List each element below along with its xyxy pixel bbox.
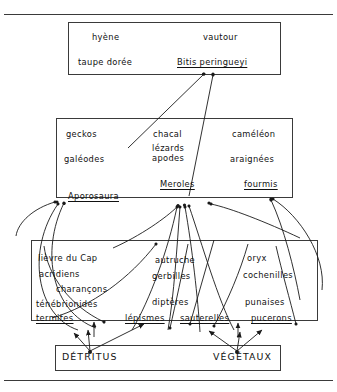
arrow-termites-to-aporosaura xyxy=(39,204,78,330)
arrow-acridiens-to-meroles xyxy=(113,206,178,248)
arrow-detritus-to-lepismes xyxy=(90,324,144,351)
label-tenebrionides: ténébrionides xyxy=(36,300,98,309)
arrow-tenebrionides-to-aporosaura xyxy=(52,203,96,328)
label-taupe-doree: taupe dorée xyxy=(78,58,132,67)
arrow-layer xyxy=(0,0,337,392)
label-vegetaux: VÉGÉTAUX xyxy=(213,352,272,362)
arrow-vegetaux-to-pucerons xyxy=(237,330,262,351)
arrow-lepismes-to-meroles xyxy=(132,207,177,330)
label-geckos: geckos xyxy=(66,130,97,139)
label-cameleon: caméléon xyxy=(232,130,275,139)
label-meroles: Meroles xyxy=(160,180,195,189)
arrow-pucerons-to-meroles xyxy=(189,206,234,330)
label-gerbilles: gerbilles xyxy=(152,272,191,281)
arrow-pucerons-to-fourmis xyxy=(271,200,300,300)
label-pucerons: pucerons xyxy=(251,314,292,323)
label-punaises: punaises xyxy=(245,298,285,307)
label-fourmis: fourmis xyxy=(244,180,278,189)
label-chacal: chacal xyxy=(153,130,182,139)
label-lievre-du-cap: lièvre du Cap xyxy=(38,254,97,263)
arrow-vegetaux-to-punaises xyxy=(237,332,240,351)
label-sauterelles: sauterelles xyxy=(180,314,229,323)
label-hyene: hyène xyxy=(92,33,119,42)
label-autruche: autruche xyxy=(155,256,195,265)
junction-dots xyxy=(55,72,272,354)
label-lezards-apodes: lézards apodes xyxy=(152,143,184,164)
label-termites: termites xyxy=(36,314,74,323)
label-bitis-peringueyi: Bitis peringueyi xyxy=(177,58,247,67)
label-cochenilles: cochenilles xyxy=(243,271,293,280)
arrow-detritus-to-termites xyxy=(74,333,90,351)
label-lepismes: lépismes xyxy=(125,314,165,323)
label-acridiens: acridiens xyxy=(39,270,80,279)
label-galeodes: galéodes xyxy=(64,155,104,164)
label-charancons: charançons xyxy=(56,285,107,294)
food-web-diagram: hyène vautour taupe dorée Bitis peringue… xyxy=(0,0,337,392)
arrow-detritus-to-termites-2 xyxy=(88,330,90,351)
arrow-sauterelles-to-meroles xyxy=(168,207,180,330)
label-dipteres: diptères xyxy=(152,298,189,307)
arrow-vegetaux-to-sauterelles xyxy=(209,331,237,351)
label-araignees: araignées xyxy=(230,155,274,164)
label-vautour: vautour xyxy=(203,33,238,42)
label-aporosaura: Aporosaura xyxy=(68,192,119,201)
label-detritus: DÉTRITUS xyxy=(62,352,118,362)
label-oryx: oryx xyxy=(247,254,267,263)
arrow-meroles-to-bitis xyxy=(189,75,213,196)
line-gerbilles-cross xyxy=(190,240,214,324)
arrow-left-curve-to-aporosaura xyxy=(16,202,55,236)
arrow-right-to-meroles-node xyxy=(211,204,300,238)
